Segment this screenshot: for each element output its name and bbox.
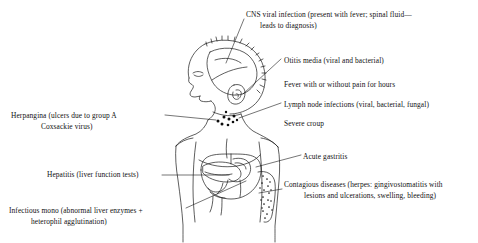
label-contagious-line2: lesions and ulcerations, swelling, bleed… bbox=[284, 191, 443, 202]
neck-and-shoulders bbox=[176, 114, 278, 147]
label-lymph-line1: Lymph node infections (viral, bacterial,… bbox=[284, 100, 429, 109]
leader-lines bbox=[162, 19, 301, 208]
label-hepatitis: Hepatitis (liver function tests) bbox=[47, 170, 139, 181]
abdominal-organs bbox=[201, 154, 261, 215]
label-mono-line2: heterophil agglutination) bbox=[9, 217, 143, 228]
label-hepatitis-line1: Hepatitis (liver function tests) bbox=[47, 170, 139, 179]
liver bbox=[203, 162, 241, 182]
label-cns-line2: leads to diagnosis) bbox=[246, 21, 412, 32]
eye bbox=[193, 72, 203, 77]
leader-mono bbox=[186, 181, 246, 208]
label-severe-croup: Severe croup bbox=[284, 119, 324, 130]
label-croup-line1: Severe croup bbox=[284, 119, 324, 128]
label-fever-with-pain: Fever with or without pain for hours bbox=[284, 80, 395, 91]
label-mono-line1: Infectious mono (abnormal liver enzymes … bbox=[9, 206, 143, 215]
leader-otitis bbox=[243, 59, 281, 94]
label-herpangina: Herpangina (ulcers due to group A Coxsac… bbox=[11, 111, 117, 132]
label-infectious-mono: Infectious mono (abnormal liver enzymes … bbox=[9, 206, 143, 227]
lymph-node-dots bbox=[217, 111, 239, 126]
head-outline bbox=[188, 40, 265, 120]
label-herpangina-line2: Coxsackie virus) bbox=[11, 122, 117, 133]
label-otitis-line1: Otitis media (viral and bacterial) bbox=[284, 56, 384, 65]
leader-gastritis bbox=[256, 155, 301, 167]
label-acute-gastritis: Acute gastritis bbox=[303, 152, 347, 163]
label-cns-viral-infection: CNS viral infection (present with fever;… bbox=[246, 10, 412, 31]
label-herpangina-line1: Herpangina (ulcers due to group A bbox=[11, 111, 117, 120]
diagram-canvas: CNS viral infection (present with fever;… bbox=[0, 0, 478, 243]
label-contagious-line1: Contagious diseases (herpes: gingivostom… bbox=[284, 180, 443, 189]
label-otitis-media: Otitis media (viral and bacterial) bbox=[284, 56, 384, 67]
label-contagious-diseases: Contagious diseases (herpes: gingivostom… bbox=[284, 180, 443, 201]
rash-stippling bbox=[259, 175, 273, 219]
brain-outline bbox=[206, 36, 266, 95]
label-lymph-node-infections: Lymph node infections (viral, bacterial,… bbox=[284, 100, 429, 111]
label-cns-line1: CNS viral infection (present with fever;… bbox=[246, 10, 412, 19]
leader-herpangina bbox=[165, 115, 216, 120]
label-gastritis-line1: Acute gastritis bbox=[303, 152, 347, 161]
label-fever-line1: Fever with or without pain for hours bbox=[284, 80, 395, 89]
